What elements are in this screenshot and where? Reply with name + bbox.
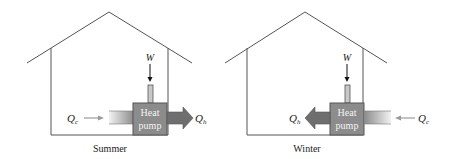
summer-heat-pump-label-2: pump bbox=[139, 120, 162, 131]
summer-qc-label: Qc bbox=[67, 112, 79, 126]
summer-work-label: W bbox=[146, 52, 156, 63]
summer-qh-arrow-icon bbox=[167, 107, 193, 129]
winter-heat-pump-label-2: pump bbox=[336, 120, 359, 131]
summer-cold-flow-bar bbox=[109, 111, 134, 124]
winter-qh-label: Qh bbox=[289, 112, 301, 126]
winter-work-pipe bbox=[345, 85, 350, 103]
heat-pump-diagram: W Qc Heat pump Qh Summer W bbox=[0, 0, 449, 159]
summer-diagram: W Qc Heat pump Qh Summer bbox=[27, 12, 207, 154]
summer-work-pipe bbox=[148, 85, 153, 103]
winter-caption: Winter bbox=[293, 143, 321, 154]
winter-qc-label: Qc bbox=[418, 112, 430, 126]
winter-qh-arrow-icon bbox=[305, 107, 330, 129]
winter-heat-pump-label-1: Heat bbox=[338, 107, 357, 118]
summer-roof bbox=[27, 12, 192, 63]
winter-work-label: W bbox=[343, 52, 353, 63]
summer-qh-label: Qh bbox=[195, 112, 207, 126]
summer-caption: Summer bbox=[93, 143, 128, 154]
winter-diagram: W Heat pump Qh Qc Winter bbox=[225, 12, 430, 154]
winter-cold-flow-bar bbox=[364, 111, 391, 124]
summer-heat-pump-label-1: Heat bbox=[141, 107, 160, 118]
